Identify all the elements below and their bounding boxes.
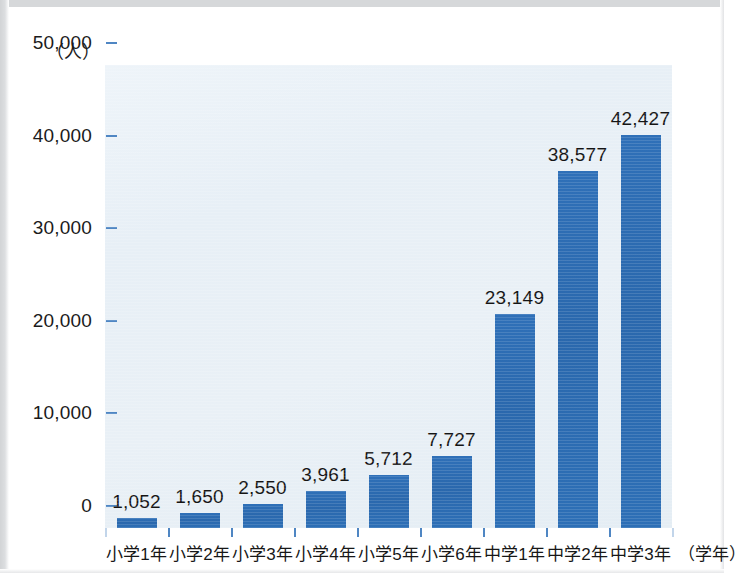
x-axis-category-label: 小学2年 — [169, 540, 229, 565]
y-axis-tick-mark — [106, 320, 117, 322]
x-axis-tick-mark — [609, 528, 611, 537]
y-axis-tick-label: 10,000 — [33, 402, 92, 423]
bar[interactable]: 5,712 — [369, 475, 409, 528]
x-axis-category-label: 中学1年 — [484, 540, 544, 565]
x-axis-tick-mark — [420, 528, 422, 537]
y-axis-tick-label: 20,000 — [33, 310, 92, 331]
bar[interactable]: 42,427 — [621, 135, 661, 528]
x-axis-tick-mark — [483, 528, 485, 537]
x-axis-category-label: 小学4年 — [295, 540, 355, 565]
x-axis-tick-mark — [168, 528, 170, 537]
x-axis-category-label: 小学1年 — [106, 540, 166, 565]
x-axis-tick-mark — [357, 528, 359, 537]
bar-value-label: 1,052 — [112, 491, 161, 513]
x-axis-tick-mark — [546, 528, 548, 537]
y-axis-tick-mark — [106, 135, 117, 137]
page-frame-left-edge — [0, 0, 9, 573]
bar-value-label: 2,550 — [238, 477, 287, 499]
x-axis-category-label: 中学2年 — [547, 540, 607, 565]
x-axis-tick-mark — [294, 528, 296, 537]
bar[interactable]: 23,149 — [495, 314, 535, 528]
x-axis-category-label: 小学3年 — [232, 540, 292, 565]
x-axis-unit-label: （学年） — [678, 540, 739, 565]
x-axis-tick-mark — [672, 528, 674, 537]
x-axis-category-label: 中学3年 — [610, 540, 670, 565]
bar-value-label: 3,961 — [301, 464, 350, 486]
bar[interactable]: 1,052 — [117, 518, 157, 528]
bar[interactable]: 1,650 — [180, 513, 220, 528]
bar[interactable]: 7,727 — [432, 456, 472, 528]
y-axis-tick: 20,000 — [33, 310, 105, 332]
y-axis-tick-label: 0 — [81, 495, 92, 516]
y-axis-tick-label: 40,000 — [33, 125, 92, 146]
y-axis-tick-mark — [106, 227, 117, 229]
x-axis-tick-mark — [105, 528, 107, 537]
bar-value-label: 23,149 — [485, 287, 544, 309]
bar-value-label: 5,712 — [364, 448, 413, 470]
y-axis-tick: 10,000 — [33, 402, 105, 424]
bar-value-label: 42,427 — [611, 108, 670, 130]
y-axis-tick-label: 50,000 — [33, 32, 92, 53]
y-axis-tick: 40,000 — [33, 125, 105, 147]
bar[interactable]: 2,550 — [243, 504, 283, 528]
page-frame-right-edge — [720, 0, 724, 573]
bar[interactable]: 38,577 — [558, 171, 598, 528]
bar[interactable]: 3,961 — [306, 491, 346, 528]
page-frame-bottom-edge — [0, 569, 724, 573]
x-axis-category-label: 小学5年 — [358, 540, 418, 565]
y-axis-tick-mark — [106, 412, 117, 414]
x-axis-tick-mark — [231, 528, 233, 537]
bar-value-label: 38,577 — [548, 144, 607, 166]
plot-area: （学年） 010,00020,00030,00040,00050,0001,05… — [105, 65, 672, 528]
bar-value-label: 1,650 — [175, 486, 224, 508]
bar-value-label: 7,727 — [427, 429, 476, 451]
x-axis-category-label: 小学6年 — [421, 540, 481, 565]
page-frame-top-edge — [0, 0, 724, 7]
bar-chart: （人） （学年） 010,00020,00030,00040,00050,000… — [9, 7, 720, 569]
y-axis-tick-mark — [106, 42, 117, 44]
y-axis-tick: 50,000 — [33, 32, 105, 54]
y-axis-tick-label: 30,000 — [33, 217, 92, 238]
y-axis-tick: 0 — [81, 495, 105, 517]
y-axis-tick: 30,000 — [33, 217, 105, 239]
